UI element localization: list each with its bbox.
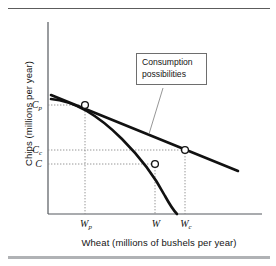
callout-line-1: Consumption [142, 57, 202, 69]
x-tick-wp-sub: p [88, 223, 92, 231]
x-tick-label-wp: Wp [75, 218, 97, 229]
chart-figure: Cp Cc C Wp W Wc Chips (millions per year… [0, 0, 276, 266]
x-tick-label-w: W [145, 218, 167, 229]
consumption-point-marker [182, 147, 189, 154]
x-tick-wc-sub: c [189, 223, 192, 231]
y-tick-c-base: C [35, 158, 42, 169]
y-tick-cp-sub: p [39, 104, 43, 112]
y-axis-title: Chips (millions per year) [23, 24, 34, 204]
callout-leader-line [149, 88, 163, 134]
x-tick-label-wc: Wc [175, 218, 197, 229]
consumption-possibilities-line [51, 95, 238, 171]
x-tick-w-base: W [152, 218, 160, 229]
callout-line-2: possibilities [142, 69, 202, 81]
consumption-possibilities-callout: Consumption possibilities [136, 53, 207, 85]
x-axis-title: Wheat (millions of bushels per year) [48, 237, 270, 248]
production-point-marker [82, 102, 89, 109]
no-trade-point-marker [152, 161, 159, 168]
y-tick-cc-sub: c [39, 149, 42, 157]
plot-area [0, 0, 276, 266]
production-possibilities-curve [51, 99, 177, 214]
x-tick-wc-base: W [180, 218, 188, 229]
bottom-divider-rule [8, 256, 270, 259]
